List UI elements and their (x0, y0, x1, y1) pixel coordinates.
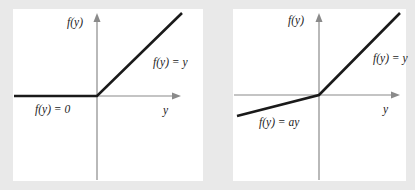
leaky-relu-right-label: f(y) = y (373, 53, 408, 65)
relu-x-axis-label: y (163, 105, 168, 117)
relu-left-label: f(y) = 0 (35, 104, 70, 116)
relu-y-axis-label: f(y) (67, 17, 83, 29)
y-axis-arrow-icon (94, 13, 101, 22)
x-axis-arrow-icon (172, 93, 181, 100)
relu-plot (0, 0, 415, 190)
relu-right-label: f(y) = y (153, 57, 188, 69)
leaky-relu-left-label: f(y) = ay (259, 117, 299, 129)
relu-curve (14, 13, 182, 96)
leaky-relu-y-axis-label: f(y) (288, 15, 304, 27)
y-axis-arrow-icon (316, 13, 323, 22)
x-axis-arrow-icon (391, 92, 400, 99)
leaky-relu-x-axis-label: y (383, 104, 388, 116)
